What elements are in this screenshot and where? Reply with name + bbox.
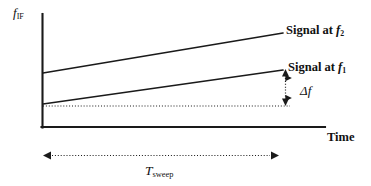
t-sweep-arrowhead-left bbox=[43, 152, 51, 160]
signal-f2-subscript: 2 bbox=[340, 29, 344, 38]
y-axis-label: fIF bbox=[13, 6, 24, 21]
t-sweep-symbol: T bbox=[145, 163, 153, 178]
t-sweep-arrowhead-right bbox=[271, 152, 279, 160]
delta-f-arrowhead-bottom bbox=[282, 99, 289, 106]
signal-f2-line bbox=[43, 33, 283, 73]
signal-f1-prefix: Signal at bbox=[288, 60, 338, 74]
delta-f-label: Δf bbox=[300, 84, 311, 97]
signal-f1-subscript: 1 bbox=[342, 66, 346, 75]
t-sweep-label: Tsweep bbox=[145, 164, 173, 180]
signal-f1-label: Signal at f1 bbox=[288, 61, 346, 75]
fmcw-sweep-figure: fIF Signal at f2 Signal at f1 Δf Time Ts… bbox=[0, 0, 371, 186]
signal-f2-label: Signal at f2 bbox=[286, 24, 344, 38]
t-sweep-subscript: sweep bbox=[153, 170, 174, 179]
x-axis-label: Time bbox=[327, 131, 355, 144]
y-axis-label-subscript: IF bbox=[17, 12, 24, 21]
signal-f2-prefix: Signal at bbox=[286, 23, 336, 37]
signal-f1-line bbox=[43, 70, 283, 104]
